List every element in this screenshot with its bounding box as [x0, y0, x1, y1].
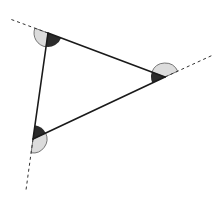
side-CA [33, 33, 48, 139]
side-BC [33, 77, 165, 139]
exterior-angles [31, 28, 178, 153]
dashed-extension-A [10, 19, 48, 33]
triangle-sides [33, 33, 165, 139]
dashed-extension-C [26, 139, 33, 190]
side-AB [48, 33, 165, 77]
triangle-diagram [0, 0, 220, 203]
